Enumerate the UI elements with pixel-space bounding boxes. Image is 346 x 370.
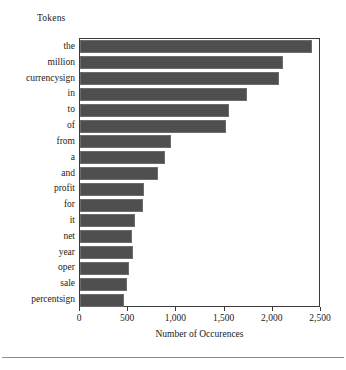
bottom-divider <box>2 357 344 358</box>
y-axis-tick-label: net <box>0 231 75 241</box>
x-axis-tick-label: 1,500 <box>213 313 234 324</box>
plot-area <box>79 38 320 307</box>
bars-layer <box>80 39 319 306</box>
x-axis-tick-mark <box>224 307 225 311</box>
bar <box>80 56 283 69</box>
x-axis-tick-mark <box>320 307 321 311</box>
x-axis-tick-label: 0 <box>77 313 82 324</box>
bar <box>80 104 229 117</box>
y-axis-tick-label: to <box>0 104 75 114</box>
bar <box>80 120 226 133</box>
bar-chart-figure: Tokens themillioncurrencysignintooffroma… <box>0 0 346 370</box>
y-axis-tick-label: a <box>0 152 75 162</box>
y-axis-tick-label: in <box>0 88 75 98</box>
y-axis-tick-label: percentsign <box>0 294 75 304</box>
y-axis-tick-label: and <box>0 168 75 178</box>
bar <box>80 199 143 212</box>
y-axis-tick-label: oper <box>0 262 75 272</box>
y-axis-tick-label: the <box>0 41 75 51</box>
bar <box>80 294 124 307</box>
x-axis-tick-labels: 05001,0001,5002,0002,500 <box>0 313 346 327</box>
bar <box>80 246 133 259</box>
bar <box>80 262 129 275</box>
x-axis-tick-mark <box>127 307 128 311</box>
bar <box>80 183 144 196</box>
x-axis-tick-label: 1,000 <box>165 313 186 324</box>
bar <box>80 167 158 180</box>
y-axis-title: Tokens <box>37 13 66 23</box>
y-axis-tick-label: year <box>0 247 75 257</box>
x-axis-tick-label: 500 <box>120 313 134 324</box>
y-axis-tick-label: from <box>0 136 75 146</box>
x-axis-tick-label: 2,000 <box>261 313 282 324</box>
y-axis-tick-label: million <box>0 57 75 67</box>
y-axis-tick-label: currencysign <box>0 73 75 83</box>
bar <box>80 151 165 164</box>
y-axis-tick-labels: themillioncurrencysignintooffromaandprof… <box>0 38 75 307</box>
y-axis-tick-label: profit <box>0 183 75 193</box>
bar <box>80 88 247 101</box>
y-axis-tick-label: for <box>0 199 75 209</box>
bar <box>80 214 135 227</box>
x-axis-tick-mark <box>79 307 80 311</box>
x-axis-tick-mark <box>175 307 176 311</box>
bar <box>80 40 312 53</box>
y-axis-tick-label: sale <box>0 278 75 288</box>
bar <box>80 135 171 148</box>
x-axis-title: Number of Occurences <box>79 329 320 339</box>
bar <box>80 278 127 291</box>
x-axis-tick-mark <box>272 307 273 311</box>
y-axis-tick-label: it <box>0 215 75 225</box>
bar <box>80 72 279 85</box>
x-axis-tick-label: 2,500 <box>309 313 330 324</box>
bar <box>80 230 132 243</box>
y-axis-tick-label: of <box>0 120 75 130</box>
